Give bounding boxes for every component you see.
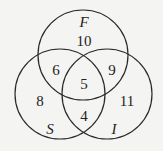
region-s-i: 4	[80, 108, 88, 124]
label-f: F	[78, 14, 89, 30]
region-f-s-i: 5	[80, 76, 88, 92]
region-f-only: 10	[77, 33, 92, 49]
region-f-i: 9	[108, 62, 116, 78]
label-i: I	[111, 121, 118, 137]
label-s: S	[46, 121, 54, 137]
region-s-only: 8	[36, 93, 44, 109]
region-f-s: 6	[52, 62, 60, 78]
venn-diagram: F S I 10 6 9 5 8 11 4	[0, 0, 163, 151]
circle-i	[62, 49, 152, 139]
region-i-only: 11	[120, 93, 134, 109]
